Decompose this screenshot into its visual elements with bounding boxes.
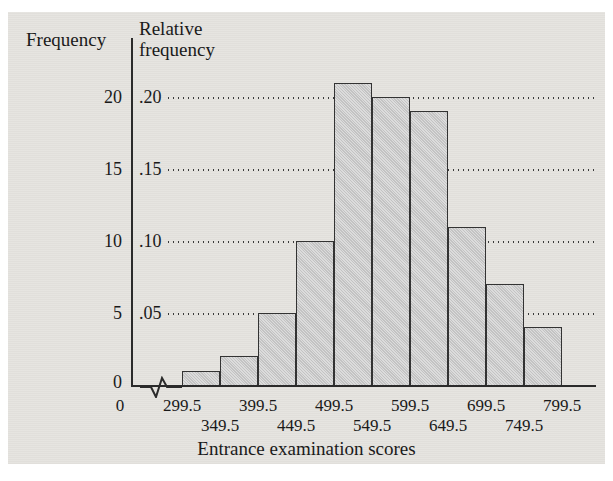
xtick-449-5: 449.5 (261, 416, 331, 436)
ytick-relative-15: .15 (139, 159, 162, 180)
xtick-599-5: 599.5 (375, 396, 445, 416)
xtick-799-5: 799.5 (527, 396, 597, 416)
bar-549-599 (372, 97, 410, 386)
xtick-499-5: 499.5 (299, 396, 369, 416)
axis-break-icon (140, 376, 182, 398)
frequency-axis-header: Frequency (26, 29, 106, 51)
ytick-relative-20: .20 (139, 87, 162, 108)
xtick-origin: 0 (110, 396, 130, 416)
relative-header-line1: Relative (139, 18, 215, 39)
xtick-699-5: 699.5 (451, 396, 521, 416)
bar-399-449 (258, 313, 296, 386)
plot-area: Frequency Relative frequency 20 15 10 5 (0, 0, 613, 481)
bar-699-749 (486, 284, 524, 386)
x-axis-line (131, 385, 596, 387)
ytick-relative-05: .05 (139, 303, 162, 324)
ytick-relative-10: .10 (139, 231, 162, 252)
ytick-frequency-10: 10 (78, 231, 122, 252)
xtick-649-5: 649.5 (413, 416, 483, 436)
xtick-349-5: 349.5 (185, 416, 255, 436)
relative-frequency-axis-header: Relative frequency (139, 18, 215, 60)
histogram-figure: Frequency Relative frequency 20 15 10 5 (0, 0, 613, 481)
bar-599-649 (410, 111, 448, 386)
ytick-frequency-15: 15 (78, 159, 122, 180)
xtick-549-5: 549.5 (337, 416, 407, 436)
bar-649-699 (448, 227, 486, 386)
bar-349-399 (220, 356, 258, 386)
bar-499-549 (334, 83, 372, 386)
bar-449-499 (296, 241, 334, 386)
relative-header-line2: frequency (139, 39, 215, 60)
xtick-299-5: 299.5 (147, 396, 217, 416)
y-axis-line (131, 38, 133, 386)
xtick-399-5: 399.5 (223, 396, 293, 416)
ytick-frequency-5: 5 (78, 303, 122, 324)
bar-749-799 (524, 327, 562, 386)
bar-299-349 (182, 371, 220, 386)
xtick-749-5: 749.5 (489, 416, 559, 436)
ytick-frequency-20: 20 (78, 87, 122, 108)
x-axis-title: Entrance examination scores (0, 438, 613, 460)
ytick-frequency-0: 0 (78, 372, 122, 393)
